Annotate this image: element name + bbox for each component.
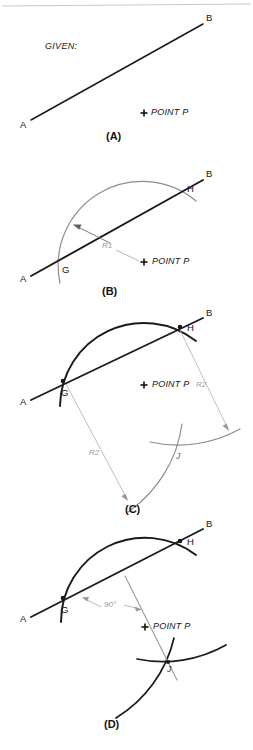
panel-a-figure — [31, 24, 203, 120]
r1-arrowhead — [73, 225, 82, 230]
label-a-panel-d: A — [20, 614, 26, 624]
label-j-panel-d: J — [167, 665, 171, 674]
label-h-panel-c: H — [187, 323, 194, 333]
r2-leader-from-g — [66, 384, 127, 499]
label-b-panel-d: B — [206, 519, 212, 529]
arc-r2-from-h — [150, 429, 240, 445]
label-h-panel-d: H — [187, 537, 194, 547]
r1-leader-to-p — [116, 250, 139, 261]
caption-panel-b: (B) — [102, 286, 117, 297]
label-r2-from-g: R2 — [89, 449, 99, 457]
label-a-panel-b: A — [20, 274, 26, 284]
label-j-panel-c: J — [176, 452, 180, 461]
panel-d-figure — [31, 529, 226, 718]
label-angle-90: 90° — [104, 601, 116, 609]
point-p-marker-panel-d — [142, 624, 149, 631]
line-ab-panel-a — [31, 24, 203, 120]
point-p-marker-panel-b — [141, 259, 148, 266]
node-h-panel-c — [178, 325, 183, 330]
label-point-p-panel-c: POINT P — [152, 380, 189, 389]
r2-arrowhead-from-h — [223, 424, 230, 431]
arc-r1-panel-c — [60, 323, 196, 406]
r2-arrowhead-from-g — [121, 494, 128, 501]
construction-drawing — [0, 0, 253, 750]
construction-sheet: GIVEN: A B POINT P (A) A B G H POINT P R… — [0, 0, 253, 750]
label-a-panel-c: A — [20, 397, 26, 407]
arc-r1-panel-b — [58, 181, 196, 283]
node-g-panel-c — [61, 379, 66, 384]
label-h-panel-b: H — [187, 184, 194, 194]
arc-r2-from-h-panel-d — [137, 645, 226, 662]
panel-c-figure — [31, 318, 240, 512]
label-b-panel-b: B — [206, 169, 212, 179]
point-p-marker-panel-c — [141, 382, 148, 389]
arc-r1-panel-d — [61, 538, 196, 622]
page-top-rule — [2, 4, 251, 6]
given-note: GIVEN: — [45, 42, 77, 51]
caption-panel-a: (A) — [106, 131, 121, 142]
label-g-panel-d: G — [61, 605, 68, 615]
arc-r2-from-g — [128, 424, 182, 512]
point-p-marker-panel-a — [141, 110, 148, 117]
node-h-panel-d — [178, 539, 183, 544]
node-g-panel-d — [61, 596, 66, 601]
label-point-p-panel-a: POINT P — [151, 108, 188, 117]
label-b-panel-c: B — [206, 308, 212, 318]
label-a-panel-a: A — [20, 120, 26, 130]
label-r2-from-h: R2 — [196, 381, 206, 389]
label-g-panel-c: G — [61, 388, 68, 398]
label-r1: R1 — [102, 242, 112, 250]
label-point-p-panel-b: POINT P — [152, 257, 189, 266]
caption-panel-c: (C) — [125, 504, 140, 515]
caption-panel-d: (D) — [104, 719, 119, 730]
label-b-panel-a: B — [206, 13, 212, 23]
panel-b-figure — [31, 180, 203, 283]
label-point-p-panel-d: POINT P — [153, 622, 190, 631]
arc-r2-from-g-panel-d — [116, 638, 174, 718]
label-g-panel-b: G — [62, 265, 69, 275]
